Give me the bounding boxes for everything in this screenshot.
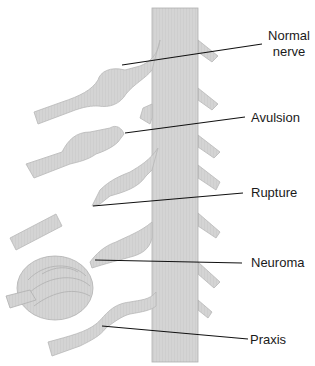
- label-normal-line2: nerve: [263, 44, 315, 60]
- rupture-proximal: [92, 148, 158, 206]
- label-avulsion: Avulsion: [251, 110, 300, 126]
- label-normal-nerve: Normal nerve: [263, 28, 315, 60]
- right-roots: [198, 40, 220, 318]
- rupture-distal: [10, 214, 62, 250]
- neuroma-mass: [6, 256, 93, 320]
- label-normal-line1: Normal: [263, 28, 315, 44]
- label-neuroma: Neuroma: [251, 255, 304, 271]
- spinal-cord: [152, 8, 198, 362]
- avulsion-nerve: [26, 126, 124, 178]
- normal-nerve: [34, 40, 160, 124]
- avulsion-stub: [140, 104, 152, 124]
- label-praxis: Praxis: [250, 332, 286, 348]
- label-rupture: Rupture: [251, 185, 297, 201]
